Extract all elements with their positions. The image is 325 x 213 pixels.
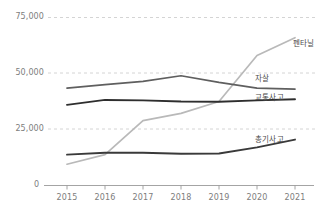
x-axis — [44, 186, 314, 190]
series-label-fentanyl: 펜타닐 — [293, 37, 315, 48]
x-tick-label-2021: 2021 — [278, 193, 312, 202]
x-tick-label-2018: 2018 — [164, 193, 198, 202]
x-tick-label-2016: 2016 — [88, 193, 122, 202]
chart-plot-area — [0, 0, 325, 213]
series-label-suicide: 자살 — [255, 72, 269, 83]
x-tick-label-2020: 2020 — [240, 193, 274, 202]
y-tick-label-0: 0 — [34, 180, 39, 189]
y-tick-label-50000: 50,000 — [0, 68, 44, 77]
y-tick-label-75000: 75,000 — [0, 12, 44, 21]
y-tick-label-25000: 25,000 — [0, 124, 44, 133]
series-label-gun-accident: 총기사고 — [255, 133, 284, 144]
x-tick-label-2015: 2015 — [50, 193, 84, 202]
x-tick-label-2017: 2017 — [126, 193, 160, 202]
x-tick-label-2019: 2019 — [202, 193, 236, 202]
series-label-traffic-accident: 교통사고 — [255, 91, 284, 102]
line-chart: 75,000 50,000 25,000 0 2015 2016 2017 20… — [0, 0, 325, 213]
